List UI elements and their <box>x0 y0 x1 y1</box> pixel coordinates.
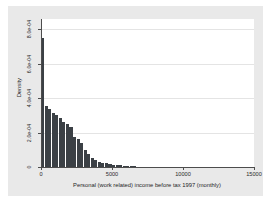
gridline <box>41 133 254 134</box>
x-axis-tick-label: 10000 <box>175 172 191 178</box>
plot-panel <box>41 19 254 167</box>
x-axis-tick-label: 0 <box>39 172 42 178</box>
y-axis-tick <box>38 133 41 134</box>
y-axis-title: Density <box>17 78 23 97</box>
y-axis-tick <box>38 29 41 30</box>
y-axis-tick-label: 8.0e-04 <box>27 20 32 38</box>
gridline <box>41 29 254 30</box>
gridline <box>41 64 254 65</box>
x-axis-tick <box>183 167 184 170</box>
y-axis-tick-label: 4.0e-04 <box>27 89 32 107</box>
gridline <box>41 98 254 99</box>
x-axis-tick <box>41 167 42 170</box>
x-axis-title: Personal (work related) income before ta… <box>73 183 221 189</box>
x-axis-tick <box>112 167 113 170</box>
y-axis-tick <box>38 98 41 99</box>
x-axis-tick-label: 15000 <box>246 172 262 178</box>
histogram-figure: 02.0e-044.0e-046.0e-048.0e-04 0500010000… <box>0 0 271 204</box>
y-axis-tick-label: 0 <box>27 166 32 169</box>
y-axis-tick-label: 6.0e-04 <box>27 55 32 73</box>
y-axis-tick <box>38 64 41 65</box>
x-axis-tick-label: 5000 <box>106 172 118 178</box>
x-axis-tick <box>254 167 255 170</box>
y-axis-tick-label: 2.0e-04 <box>27 123 32 141</box>
x-axis-line <box>41 167 254 168</box>
y-axis-line <box>41 19 42 168</box>
